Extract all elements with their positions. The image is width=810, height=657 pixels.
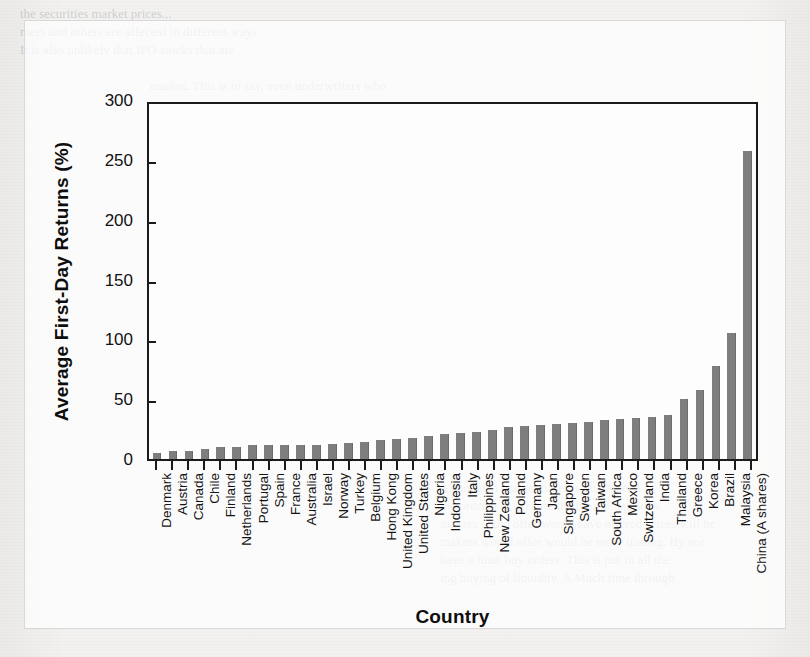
x-tick-slot	[211, 461, 227, 471]
bar	[632, 418, 641, 459]
x-tick-slot	[179, 461, 195, 471]
bar	[616, 419, 625, 459]
x-tick-mark	[428, 461, 430, 470]
x-label-slot: United States	[404, 473, 420, 598]
bar	[504, 427, 513, 459]
x-label-slot: China (A shares)	[742, 473, 758, 598]
bar-slot	[532, 104, 548, 459]
x-label-slot: Denmark	[147, 473, 163, 598]
bar-slot	[692, 104, 708, 459]
x-label-slot: Korea	[694, 473, 710, 598]
y-tick-mark	[147, 401, 156, 403]
x-tick-mark	[412, 461, 414, 470]
bar-slot	[724, 104, 740, 459]
x-tick-mark	[332, 461, 334, 470]
bar-slot	[165, 104, 181, 459]
bar-slot	[580, 104, 596, 459]
bar-slot	[213, 104, 229, 459]
bar-slot	[373, 104, 389, 459]
bar-slot	[405, 104, 421, 459]
bar	[392, 439, 401, 459]
x-tick-slot	[163, 461, 179, 471]
x-tick-mark	[718, 461, 720, 470]
bar	[440, 434, 449, 459]
x-tick-slot	[710, 461, 726, 471]
x-tick-slot	[420, 461, 436, 471]
x-tick-mark	[284, 461, 286, 470]
x-label-slot: Germany	[517, 473, 533, 598]
x-axis-category-labels: DenmarkAustriaCanadaChileFinlandNetherla…	[147, 473, 758, 598]
x-label-slot: Poland	[501, 473, 517, 598]
x-label-slot: United Kingdom	[388, 473, 404, 598]
x-axis-title: Country	[147, 606, 758, 628]
x-tick-mark	[444, 461, 446, 470]
x-tick-slot	[276, 461, 292, 471]
x-tick-slot	[388, 461, 404, 471]
x-tick-slot	[726, 461, 742, 471]
bar	[360, 442, 369, 459]
x-label-slot: Greece	[678, 473, 694, 598]
x-label-slot: New Zealand	[485, 473, 501, 598]
x-label-slot: Hong Kong	[372, 473, 388, 598]
y-tick-label: 300	[105, 91, 133, 111]
x-label-slot: Thailand	[662, 473, 678, 598]
x-label-slot: Finland	[211, 473, 227, 598]
x-tick-mark	[702, 461, 704, 470]
x-label-slot: Italy	[452, 473, 468, 598]
bar	[169, 451, 178, 459]
bar-slot	[644, 104, 660, 459]
bar	[536, 425, 545, 459]
bar-slot	[420, 104, 436, 459]
bar	[712, 366, 721, 459]
bar	[696, 390, 705, 459]
x-tick-mark	[268, 461, 270, 470]
x-tick-mark	[670, 461, 672, 470]
bar	[568, 423, 577, 460]
x-tick-mark	[750, 461, 752, 470]
bar	[600, 420, 609, 459]
x-tick-slot	[645, 461, 661, 471]
x-tick-slot	[742, 461, 758, 471]
bar-slot	[325, 104, 341, 459]
scanned-page-background: the securities market prices... mers and…	[0, 0, 810, 657]
x-tick-mark	[348, 461, 350, 470]
x-label-slot: Australia	[292, 473, 308, 598]
x-tick-mark	[235, 461, 237, 470]
x-tick-mark	[187, 461, 189, 470]
bar-slot	[468, 104, 484, 459]
bar-slot	[229, 104, 245, 459]
x-tick-slot	[227, 461, 243, 471]
bar-slot	[357, 104, 373, 459]
x-tick-mark	[734, 461, 736, 470]
bar	[216, 447, 225, 459]
x-tick-mark	[557, 461, 559, 470]
bar	[312, 445, 321, 459]
bar-slot	[293, 104, 309, 459]
x-label-slot: Chile	[195, 473, 211, 598]
x-label-slot: Austria	[163, 473, 179, 598]
x-tick-mark	[380, 461, 382, 470]
x-tick-mark	[637, 461, 639, 470]
x-tick-slot	[517, 461, 533, 471]
bar	[248, 445, 257, 459]
bar	[232, 447, 241, 459]
x-label-slot: Switzerland	[629, 473, 645, 598]
bars-layer	[149, 104, 756, 459]
x-label-slot: France	[276, 473, 292, 598]
y-tick-mark	[147, 341, 156, 343]
bar-slot	[197, 104, 213, 459]
bar-slot	[516, 104, 532, 459]
bar-slot	[309, 104, 325, 459]
x-tick-slot	[436, 461, 452, 471]
bar-slot	[389, 104, 405, 459]
x-tick-slot	[613, 461, 629, 471]
x-tick-slot	[533, 461, 549, 471]
bar	[488, 430, 497, 459]
x-tick-slot	[356, 461, 372, 471]
x-tick-mark	[541, 461, 543, 470]
bar-slot	[548, 104, 564, 459]
bar	[376, 440, 385, 459]
plot-area	[147, 102, 758, 461]
x-tick-mark	[396, 461, 398, 470]
x-tick-slot	[694, 461, 710, 471]
